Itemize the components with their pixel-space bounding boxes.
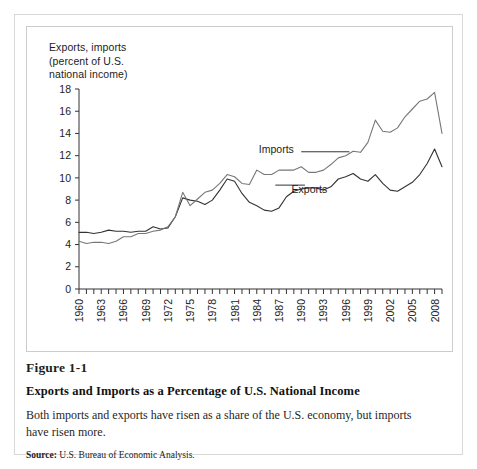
x-tick-label: 1981	[229, 299, 241, 323]
x-tick-label: 1972	[162, 299, 174, 323]
series-label-exports: Exports	[292, 183, 328, 195]
x-tick-label: 1963	[95, 299, 107, 323]
y-tick-label: 8	[65, 194, 71, 206]
figure-description: Both imports and exports have risen as a…	[26, 407, 426, 440]
x-tick-label: 1987	[273, 299, 285, 323]
y-tick-label: 10	[59, 172, 71, 184]
figure-number: Figure 1-1	[26, 360, 431, 376]
y-tick-label: 2	[65, 260, 71, 272]
y-tick-label: 6	[65, 216, 71, 228]
x-tick-label: 1996	[340, 299, 352, 323]
series-line-exports	[79, 149, 442, 233]
y-tick-label: 18	[59, 83, 71, 95]
figure-title: Exports and Imports as a Percentage of U…	[26, 384, 431, 399]
source-label: Source:	[26, 450, 57, 460]
y-tick-label: 4	[65, 238, 71, 250]
x-tick-label: 1993	[317, 299, 329, 323]
x-tick-label: 1999	[362, 299, 374, 323]
figure-source: Source: U.S. Bureau of Economic Analysis…	[26, 450, 431, 460]
series-line-imports	[79, 92, 442, 243]
x-tick-label: 1960	[73, 299, 85, 323]
line-chart: 0246810121416181960196319661969197219751…	[27, 27, 452, 351]
x-tick-label: 2005	[406, 299, 418, 323]
y-tick-label: 14	[59, 127, 71, 139]
x-tick-label: 1969	[140, 299, 152, 323]
x-tick-label: 2002	[384, 299, 396, 323]
figure-caption: Figure 1-1 Exports and Imports as a Perc…	[26, 360, 431, 460]
x-tick-label: 1975	[184, 299, 196, 323]
y-tick-label: 12	[59, 149, 71, 161]
x-tick-label: 1990	[295, 299, 307, 323]
chart-plot-panel: Exports, imports (percent of U.S. nation…	[26, 26, 453, 352]
y-tick-label: 0	[65, 283, 71, 295]
x-tick-label: 1966	[117, 299, 129, 323]
source-text: U.S. Bureau of Economic Analysis.	[59, 450, 194, 460]
series-label-imports: Imports	[259, 143, 294, 155]
y-tick-label: 16	[59, 105, 71, 117]
x-tick-label: 2008	[429, 299, 441, 323]
x-tick-label: 1984	[251, 299, 263, 323]
x-tick-label: 1978	[206, 299, 218, 323]
figure-card: Exports, imports (percent of U.S. nation…	[14, 14, 463, 455]
